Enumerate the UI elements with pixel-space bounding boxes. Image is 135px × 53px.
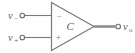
noninverting-sign-symbol: + <box>56 32 62 43</box>
output-label-base: v <box>123 21 128 32</box>
inverting-input-terminal-icon <box>20 13 25 18</box>
inverting-input-label-base: v <box>8 10 13 21</box>
output-label-subscript: o <box>129 26 133 34</box>
inverting-input-label-subscript: − <box>14 15 18 23</box>
noninverting-input-terminal-icon <box>20 35 25 40</box>
circuit-diagram-canvas: − + C v − v + v o <box>0 0 135 53</box>
noninverting-input-label: v + <box>8 32 18 45</box>
amplifier-body-label: C <box>67 20 75 32</box>
opamp-figure: − + C v − v + v o <box>0 0 135 53</box>
noninverting-input-label-subscript: + <box>14 37 18 45</box>
inverting-input-label: v − <box>8 10 18 23</box>
output-terminal-icon <box>116 24 121 29</box>
inverting-sign-symbol: − <box>57 11 62 21</box>
output-label: v o <box>123 21 133 34</box>
noninverting-input-label-base: v <box>8 32 13 43</box>
